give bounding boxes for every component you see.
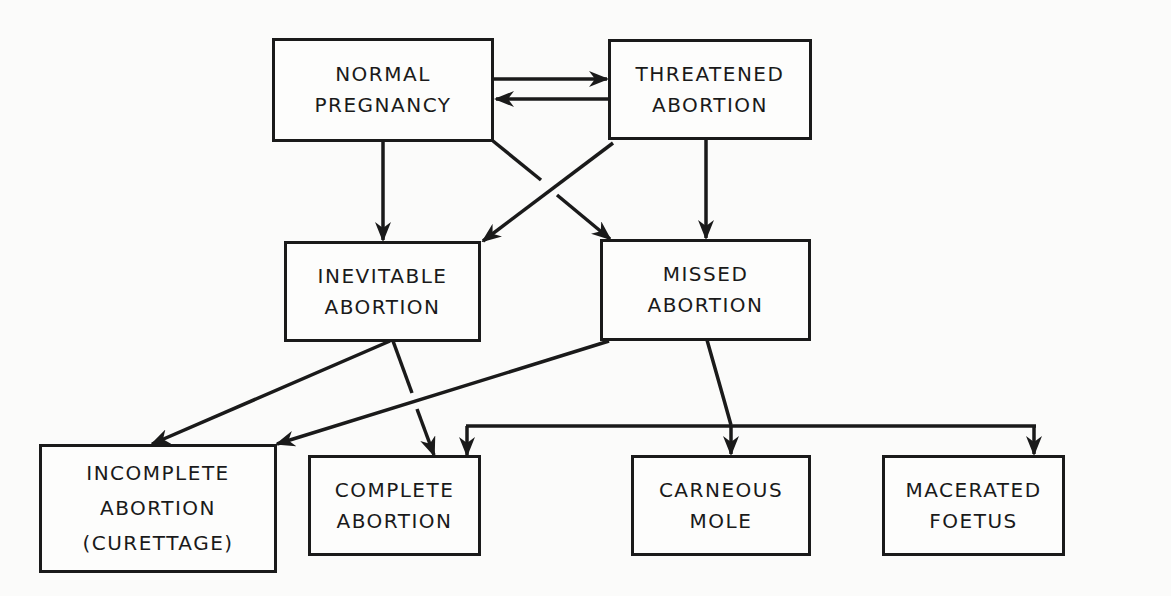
- node-label: COMPLETE: [335, 475, 455, 506]
- node-carneous-mole: CARNEOUS MOLE: [631, 455, 811, 556]
- edge-normal-missed-b: [557, 195, 610, 239]
- node-label: (CURETTAGE): [82, 526, 233, 561]
- node-label: THREATENED: [636, 59, 785, 90]
- node-label: MOLE: [690, 506, 753, 537]
- node-macerated-foetus: MACERATED FOETUS: [882, 455, 1065, 556]
- node-label: INEVITABLE: [318, 261, 448, 292]
- edge-inevitable-complete-a: [393, 341, 412, 393]
- edge-inevitable-complete-b: [417, 409, 434, 455]
- node-label: MACERATED: [905, 475, 1041, 506]
- edge-normal-missed-a: [493, 141, 541, 180]
- edge-missed-bus: [707, 340, 731, 425]
- node-normal-pregnancy: NORMAL PREGNANCY: [272, 38, 494, 142]
- node-missed-abortion: MISSED ABORTION: [600, 239, 811, 341]
- node-incomplete-abortion: INCOMPLETE ABORTION (CURETTAGE): [39, 444, 277, 573]
- node-label: ABORTION: [647, 290, 763, 321]
- node-label: NORMAL: [335, 59, 431, 90]
- node-inevitable-abortion: INEVITABLE ABORTION: [284, 241, 481, 342]
- node-label: MISSED: [663, 259, 749, 290]
- node-label: ABORTION: [652, 90, 768, 121]
- node-label: INCOMPLETE: [86, 456, 230, 491]
- abortion-flowchart: NORMAL PREGNANCY THREATENED ABORTION INE…: [0, 0, 1171, 596]
- node-label: ABORTION: [100, 491, 216, 526]
- node-label: ABORTION: [336, 506, 452, 537]
- node-label: FOETUS: [929, 506, 1017, 537]
- node-threatened-abortion: THREATENED ABORTION: [608, 39, 812, 140]
- node-complete-abortion: COMPLETE ABORTION: [308, 455, 481, 556]
- edge-inevitable-incomplete: [152, 341, 390, 444]
- node-label: ABORTION: [324, 292, 440, 323]
- node-label: PREGNANCY: [314, 90, 451, 121]
- node-label: CARNEOUS: [659, 475, 783, 506]
- edge-missed-incomplete: [277, 341, 609, 444]
